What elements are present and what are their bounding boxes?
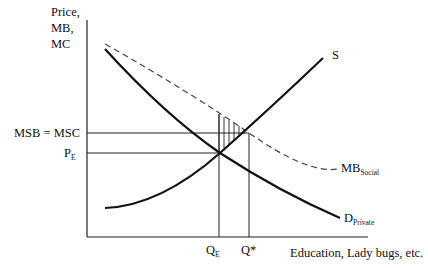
mb-social-sub: Social bbox=[360, 168, 379, 177]
qstar-label: Q* bbox=[241, 243, 256, 257]
d-private-main: D bbox=[344, 211, 353, 225]
y-axis-label: Price, MB, MC bbox=[51, 4, 80, 52]
msb-msc-label: MSB = MSC bbox=[14, 126, 80, 140]
pe-sub: E bbox=[71, 153, 76, 162]
y-axis-label-line-1: Price, bbox=[51, 4, 80, 20]
pe-main: P bbox=[64, 146, 71, 160]
x-axis-label: Education, Lady bugs, etc. bbox=[290, 246, 423, 260]
d-private-sub: Private bbox=[353, 218, 374, 227]
y-axis-label-line-2: MB, bbox=[51, 20, 80, 36]
y-axis-label-line-3: MC bbox=[51, 36, 80, 52]
qe-label: QE bbox=[206, 243, 220, 262]
supply-label: S bbox=[332, 48, 339, 62]
qe-main: Q bbox=[206, 243, 215, 257]
pe-label: PE bbox=[64, 146, 76, 165]
mb-social-main: MB bbox=[341, 161, 360, 175]
mb-social-label: MBSocial bbox=[341, 161, 379, 180]
d-private-label: DPrivate bbox=[344, 211, 374, 230]
qe-sub: E bbox=[215, 250, 220, 259]
